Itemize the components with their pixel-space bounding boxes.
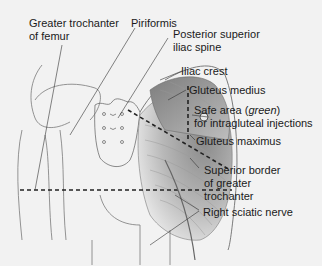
label-superior-border-3: trochanter xyxy=(204,190,254,202)
left-pelvis-outline xyxy=(18,65,101,240)
label-psis-2: iliac spine xyxy=(173,41,221,53)
label-piriformis: Piriformis xyxy=(131,17,177,29)
safe-area-suffix: ) xyxy=(277,104,281,116)
label-greater-trochanter-2: of femur xyxy=(29,30,69,42)
label-sciatic-nerve: Right sciatic nerve xyxy=(203,206,293,218)
diagram-canvas: Greater trochanter of femur Piriformis P… xyxy=(0,0,322,266)
safe-area-prefix: Safe area ( xyxy=(194,104,248,116)
sacrum xyxy=(95,99,140,167)
label-greater-trochanter: Greater trochanter xyxy=(29,17,119,29)
label-safe-area-2: for intragluteal injections xyxy=(194,117,313,129)
label-superior-border: Superior border xyxy=(204,164,280,176)
label-gluteus-maximus: Gluteus maximus xyxy=(196,135,281,147)
label-superior-border-2: of greater xyxy=(204,177,251,189)
label-safe-area: Safe area (green) xyxy=(194,104,280,116)
label-gluteus-medius: Gluteus medius xyxy=(189,84,265,96)
label-psis: Posterior superior xyxy=(173,28,260,40)
label-iliac-crest: Iliac crest xyxy=(181,65,227,77)
safe-area-color: green xyxy=(248,104,276,116)
